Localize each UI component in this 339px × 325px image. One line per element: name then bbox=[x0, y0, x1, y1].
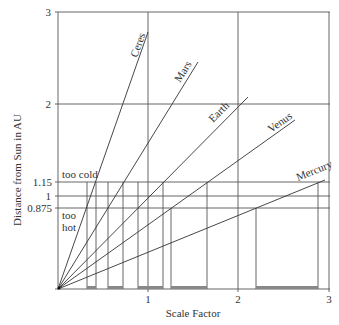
mars-bar bbox=[108, 182, 123, 289]
x-tick-2: 2 bbox=[235, 293, 241, 305]
habitable-zone-chart: Ceres Mars Earth Venus Mercury too cold … bbox=[0, 0, 339, 325]
earth-bar bbox=[138, 182, 163, 289]
y-tick-1: 1 bbox=[46, 190, 52, 202]
venus-line bbox=[58, 120, 295, 289]
planet-lines bbox=[58, 32, 325, 289]
too-hot-label-line1: too bbox=[62, 209, 77, 221]
y-tick-1-15: 1.15 bbox=[33, 176, 53, 188]
mars-label: Mars bbox=[172, 59, 194, 85]
mercury-bar bbox=[256, 182, 318, 289]
ceres-line bbox=[58, 32, 148, 289]
habitable-bars bbox=[87, 182, 318, 289]
y-tick-3: 3 bbox=[46, 6, 52, 18]
y-tick-2: 2 bbox=[46, 98, 52, 110]
x-tick-1: 1 bbox=[145, 293, 151, 305]
ceres-label: Ceres bbox=[128, 31, 148, 59]
x-tick-3: 3 bbox=[326, 293, 332, 305]
earth-label: Earth bbox=[206, 99, 232, 125]
y-axis-title: Distance from Sun in AU bbox=[11, 114, 23, 226]
mercury-label: Mercury bbox=[294, 157, 334, 183]
too-hot-label-line2: hot bbox=[62, 221, 76, 233]
x-axis-title: Scale Factor bbox=[166, 307, 221, 319]
too-cold-label: too cold bbox=[62, 168, 98, 180]
earth-line bbox=[58, 97, 248, 289]
y-tick-0-875: 0.875 bbox=[27, 202, 52, 214]
